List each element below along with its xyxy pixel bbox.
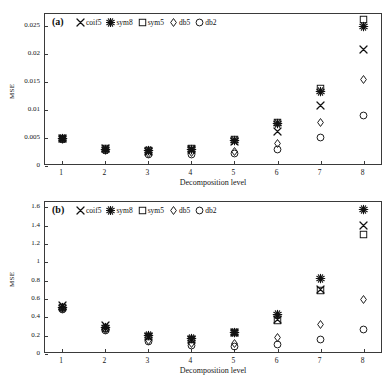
data-point-db5 [316, 118, 325, 127]
chart-panel-a: (a) coif5sym8sym5db5db2 MSE Decompositio… [0, 0, 392, 196]
x-tick-label: 6 [275, 356, 279, 365]
x-tick-label: 3 [145, 356, 149, 365]
legend-label: sym5 [148, 18, 164, 27]
y-tick-mark [45, 354, 48, 355]
x-tick-label: 7 [318, 168, 322, 177]
data-point-sym5 [273, 118, 282, 127]
x-tick-label: 7 [318, 356, 322, 365]
data-point-db2 [316, 335, 325, 344]
data-point-sym5 [230, 135, 239, 144]
data-point-db2 [230, 149, 239, 158]
y-tick-label: 0.8 [0, 276, 40, 284]
cross-icon [76, 18, 85, 27]
x-tick-label: 4 [189, 168, 193, 177]
x-tick-mark [105, 161, 106, 164]
star-icon [106, 206, 115, 215]
y-tick-label: 0.6 [0, 294, 40, 302]
cross-icon [76, 206, 85, 215]
legend-label: sym5 [148, 206, 164, 215]
x-tick-mark [148, 349, 149, 352]
x-tick-label: 5 [232, 356, 236, 365]
square-icon [138, 206, 147, 215]
y-tick-mark [45, 54, 48, 55]
legend-entry-db2: db2 [195, 206, 216, 215]
y-tick-mark [45, 207, 48, 208]
y-tick-label: 1 [0, 257, 40, 265]
data-point-sym5 [316, 286, 325, 295]
y-tick-label: 1.6 [0, 202, 40, 210]
y-tick-label: 1.4 [0, 221, 40, 229]
plot-area-b [45, 202, 381, 352]
legend-a: coif5sym8sym5db5db2 [76, 18, 216, 27]
y-tick-mark [45, 281, 48, 282]
y-tick-mark [45, 138, 48, 139]
x-tick-mark [321, 161, 322, 164]
legend-label: sym8 [116, 18, 132, 27]
x-tick-label: 1 [59, 356, 63, 365]
legend-label: sym8 [116, 206, 132, 215]
y-tick-label: 0.005 [0, 133, 40, 141]
y-tick-mark [45, 166, 48, 167]
chart-panel-b: (b) coif5sym8sym5db5db2 MSE Decompositio… [0, 192, 392, 392]
data-point-sym5 [230, 328, 239, 337]
data-point-db2 [187, 150, 196, 159]
x-tick-label: 8 [361, 168, 365, 177]
legend-entry-coif5: coif5 [76, 18, 101, 27]
legend-entry-sym5: sym5 [138, 206, 164, 215]
data-point-db2 [316, 133, 325, 142]
panel-label-a: (a) [52, 16, 64, 27]
data-point-db2 [101, 326, 110, 335]
panel-label-b: (b) [52, 204, 64, 215]
y-tick-label: 0.4 [0, 312, 40, 320]
y-tick-label: 0 [0, 349, 40, 357]
data-point-db2 [58, 135, 67, 144]
data-point-db5 [359, 295, 368, 304]
x-tick-mark [364, 349, 365, 352]
figure-root: (a) coif5sym8sym5db5db2 MSE Decompositio… [0, 0, 392, 392]
y-axis-label-a: MSE [8, 84, 16, 99]
data-point-db2 [58, 305, 67, 314]
y-tick-label: 0.01 [0, 105, 40, 113]
y-tick-mark [45, 26, 48, 27]
data-point-coif5 [316, 101, 325, 110]
x-tick-label: 6 [275, 168, 279, 177]
y-tick-label: 0 [0, 161, 40, 169]
legend-entry-sym8: sym8 [106, 206, 132, 215]
plot-area-a [45, 14, 381, 164]
y-tick-mark [45, 299, 48, 300]
plot-frame-b [44, 201, 382, 353]
legend-label: db5 [179, 18, 190, 27]
data-point-sym8 [359, 205, 368, 214]
x-tick-label: 4 [189, 356, 193, 365]
data-point-coif5 [359, 221, 368, 230]
data-point-coif5 [359, 45, 368, 54]
data-point-sym5 [359, 15, 368, 24]
circle-icon [195, 18, 204, 27]
x-tick-label: 5 [232, 168, 236, 177]
y-tick-mark [45, 244, 48, 245]
data-point-db5 [359, 75, 368, 84]
x-axis-label-a: Decomposition level [44, 178, 382, 187]
y-tick-mark [45, 317, 48, 318]
x-tick-mark [62, 161, 63, 164]
legend-label: db2 [205, 18, 216, 27]
data-point-db2 [359, 111, 368, 120]
x-tick-mark [278, 161, 279, 164]
legend-label: coif5 [86, 206, 101, 215]
data-point-db2 [273, 145, 282, 154]
y-tick-label: 0.02 [0, 49, 40, 57]
legend-label: db2 [205, 206, 216, 215]
data-point-sym5 [316, 84, 325, 93]
legend-label: db5 [179, 206, 190, 215]
data-point-sym5 [359, 230, 368, 239]
data-point-coif5 [273, 127, 282, 136]
data-point-db2 [144, 337, 153, 346]
legend-b: coif5sym8sym5db5db2 [76, 206, 216, 215]
data-point-db2 [230, 342, 239, 351]
x-tick-mark [234, 161, 235, 164]
x-tick-mark [62, 349, 63, 352]
x-axis-label-b: Decomposition level [44, 366, 382, 375]
data-point-db2 [187, 341, 196, 350]
x-tick-label: 1 [59, 168, 63, 177]
diamond-icon [169, 18, 178, 27]
